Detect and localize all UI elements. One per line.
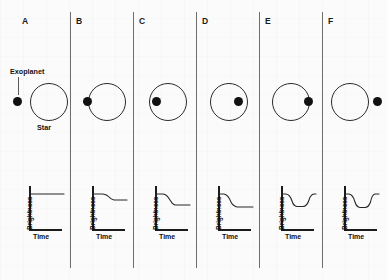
panel-divider-de: [259, 12, 260, 268]
curve-d: [219, 186, 253, 230]
x-axis-label-a: Time: [33, 233, 49, 240]
panel-letter-c: C: [139, 16, 146, 26]
star-label: Star: [37, 123, 51, 132]
planet-f: [373, 97, 382, 106]
star-b: [88, 83, 126, 121]
x-axis-label-d: Time: [222, 233, 238, 240]
curve-c: [156, 186, 190, 230]
x-axis-label-c: Time: [159, 233, 175, 240]
curve-a: [30, 186, 64, 230]
exoplanet-leader-line: [18, 77, 19, 95]
planet-c: [152, 97, 161, 106]
star-f: [331, 83, 369, 121]
panel-letter-a: A: [22, 16, 29, 26]
curve-f: [345, 186, 379, 230]
exoplanet-label: Exoplanet: [10, 67, 44, 76]
x-axis-label-e: Time: [285, 233, 301, 240]
panel-letter-f: F: [328, 16, 334, 26]
x-axis-label-b: Time: [96, 233, 112, 240]
panel-letter-e: E: [265, 16, 271, 26]
curve-e: [282, 186, 316, 230]
planet-a: [13, 97, 22, 106]
planet-b: [83, 97, 92, 106]
panel-letter-b: B: [76, 16, 83, 26]
panel-divider-cd: [196, 12, 197, 268]
star-a: [30, 83, 68, 121]
panel-divider-ef: [322, 12, 323, 268]
panel-divider-bc: [133, 12, 134, 268]
paper-texture: [0, 0, 387, 280]
planet-e: [304, 97, 313, 106]
figure-canvas: A B C D E F Exoplanet Star Brightness Ti…: [0, 0, 387, 280]
x-axis-label-f: Time: [348, 233, 364, 240]
panel-letter-d: D: [202, 16, 209, 26]
curve-b: [93, 186, 127, 230]
planet-d: [234, 97, 243, 106]
panel-divider-ab: [70, 12, 71, 268]
